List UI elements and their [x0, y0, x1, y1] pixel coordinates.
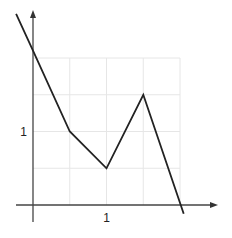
grid — [33, 58, 180, 205]
chart: 11 — [0, 0, 232, 238]
x-tick-label: 1 — [103, 211, 110, 225]
data-line — [16, 14, 184, 214]
x-axis-arrow-icon — [210, 202, 218, 208]
axes — [16, 10, 218, 222]
y-tick-label: 1 — [20, 125, 27, 139]
tick-labels: 11 — [20, 125, 110, 226]
y-axis-arrow-icon — [30, 10, 36, 18]
